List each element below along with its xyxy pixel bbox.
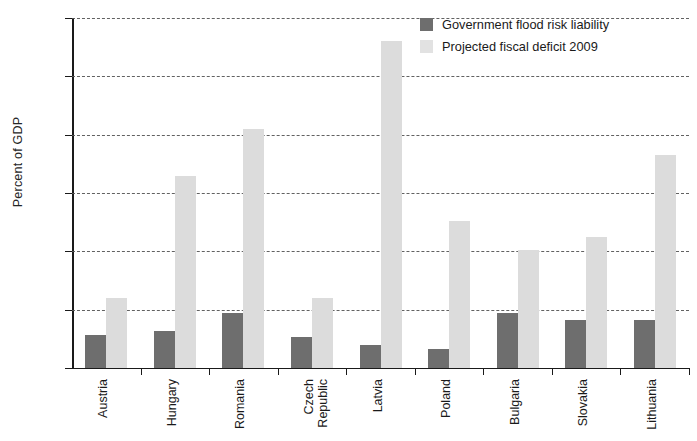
y-axis-title: Percent of GDP xyxy=(11,82,25,242)
x-tick-mark xyxy=(415,368,416,375)
legend-label: Projected fiscal deficit 2009 xyxy=(442,39,598,54)
x-tick-mark xyxy=(689,368,690,375)
y-tick-mark xyxy=(65,193,72,194)
bar-group xyxy=(497,18,539,368)
y-tick-mark xyxy=(65,18,72,19)
bar xyxy=(312,298,333,368)
x-axis-label: Austria xyxy=(97,379,111,441)
bar-group xyxy=(565,18,607,368)
bar xyxy=(428,349,449,368)
bar xyxy=(655,155,676,368)
bar-group xyxy=(360,18,402,368)
bar-group xyxy=(154,18,196,368)
bar xyxy=(222,313,243,368)
bar xyxy=(586,237,607,368)
gridline-0% xyxy=(72,368,689,369)
bar-group xyxy=(222,18,264,368)
bar-chart: Percent of GDP 0%1%2%3%4%5%6% AustriaHun… xyxy=(0,0,697,441)
bar xyxy=(497,313,518,368)
x-tick-mark xyxy=(483,368,484,375)
x-tick-mark xyxy=(552,368,553,375)
y-tick-mark xyxy=(65,368,72,369)
x-tick-mark xyxy=(346,368,347,375)
bar xyxy=(449,221,470,368)
legend-item: Projected fiscal deficit 2009 xyxy=(420,39,690,54)
x-tick-mark xyxy=(141,368,142,375)
bar xyxy=(106,298,127,368)
bar xyxy=(154,331,175,368)
legend-label: Government flood risk liability xyxy=(442,17,609,32)
x-tick-mark xyxy=(209,368,210,375)
legend-item: Government flood risk liability xyxy=(420,17,690,32)
bar xyxy=(85,335,106,368)
x-axis-label: Slovakia xyxy=(577,379,591,441)
bar xyxy=(518,250,539,368)
x-axis-label: Hungary xyxy=(166,379,180,441)
legend-swatch-icon xyxy=(420,40,433,53)
bar xyxy=(634,320,655,368)
legend-swatch-icon xyxy=(420,18,433,31)
bar xyxy=(381,41,402,368)
x-axis-label: Poland xyxy=(440,379,454,441)
bar-groups xyxy=(72,18,689,368)
bar-group xyxy=(291,18,333,368)
y-tick-mark xyxy=(65,251,72,252)
x-tick-mark xyxy=(620,368,621,375)
x-tick-mark xyxy=(278,368,279,375)
x-axis-label: Romania xyxy=(234,379,248,441)
y-tick-mark xyxy=(65,310,72,311)
y-tick-mark xyxy=(65,76,72,77)
y-tick-mark xyxy=(65,135,72,136)
bar-group xyxy=(428,18,470,368)
bar xyxy=(243,129,264,368)
bar-group xyxy=(85,18,127,368)
bar-group xyxy=(634,18,676,368)
chart-legend: Government flood risk liabilityProjected… xyxy=(420,17,690,61)
x-axis-label: Latvia xyxy=(372,379,386,441)
bar xyxy=(291,337,312,369)
bar xyxy=(565,320,586,368)
bar xyxy=(360,345,381,368)
x-axis-label: Bulgaria xyxy=(509,379,523,441)
bar xyxy=(175,176,196,369)
plot-area: 0%1%2%3%4%5%6% xyxy=(72,18,689,368)
x-axis-label: Czech Republic xyxy=(303,379,330,441)
x-axis-label: Lithuania xyxy=(646,379,660,441)
